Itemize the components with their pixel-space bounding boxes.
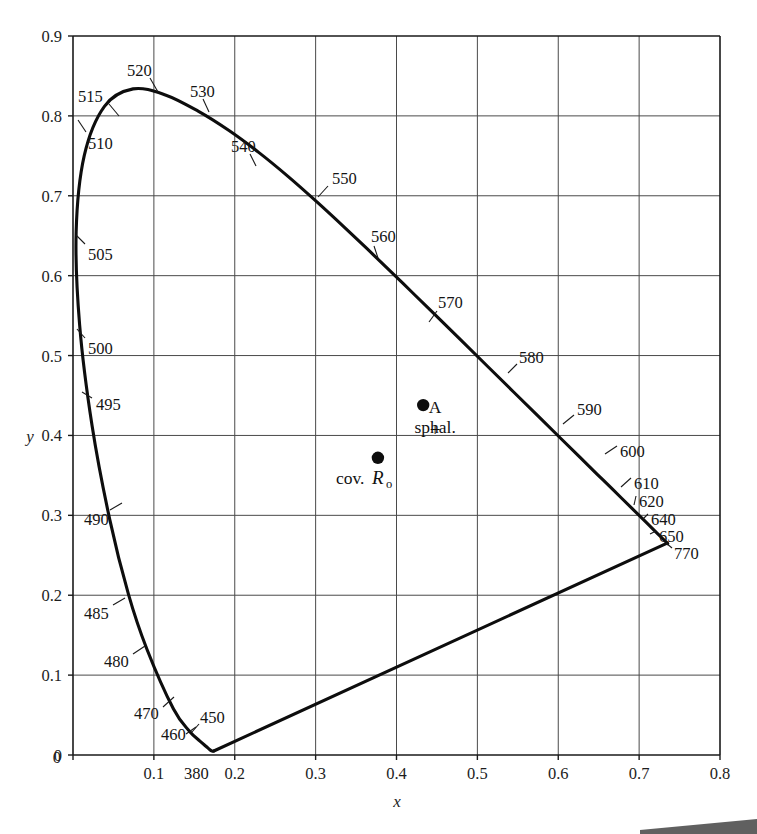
wavelength-label: 500 xyxy=(88,339,113,358)
y-tick-label: 0.5 xyxy=(41,347,62,366)
x-tick-label: 0.4 xyxy=(386,764,407,783)
wavelength-label: 485 xyxy=(84,604,109,623)
y-tick-label: 0.7 xyxy=(41,187,62,206)
y-tick-label: 0 xyxy=(54,746,62,765)
y-tick-label: 0.9 xyxy=(41,27,62,46)
y-tick-label: 0.8 xyxy=(41,107,62,126)
wavelength-label: 530 xyxy=(190,82,215,101)
y-tick-label: 0.1 xyxy=(41,666,62,685)
data-point-marker-sphalerite xyxy=(417,399,429,411)
wavelength-label: 590 xyxy=(577,400,602,419)
x-tick-label: 0.7 xyxy=(629,764,650,783)
y-tick-label: 0.3 xyxy=(41,506,62,525)
wavelength-label: 520 xyxy=(127,61,152,80)
wavelength-label: 480 xyxy=(104,652,129,671)
covellite-label-prefix: cov. xyxy=(336,468,365,488)
x-tick-label: 0.6 xyxy=(548,764,569,783)
y-axis-title: y xyxy=(24,427,34,446)
wavelength-label: 560 xyxy=(371,227,396,246)
wavelength-label: 380 xyxy=(184,764,209,783)
x-tick-label: 0.5 xyxy=(467,764,488,783)
wavelength-label: 550 xyxy=(332,169,357,188)
wavelength-label: 490 xyxy=(84,510,109,529)
x-tick-label: 0.3 xyxy=(305,764,326,783)
wavelength-label: 470 xyxy=(134,704,159,723)
wavelength-label: 505 xyxy=(88,245,113,264)
wavelength-label: 770 xyxy=(674,544,699,563)
y-tick-label: 0.6 xyxy=(41,267,62,286)
x-tick-label: 0.1 xyxy=(144,764,165,783)
wavelength-label: 510 xyxy=(88,134,113,153)
cie-chromaticity-figure: 00.10.20.30.40.50.60.70.8 00.10.20.30.40… xyxy=(0,0,757,834)
data-point-label-illuminant-a: A xyxy=(429,397,442,417)
y-tick-label: 0.4 xyxy=(41,426,62,445)
wavelength-label: 570 xyxy=(438,293,463,312)
covellite-label-italic: R xyxy=(371,467,384,488)
data-point-marker-covellite-ro xyxy=(372,452,384,464)
data-point-label-sphalerite: sphal. xyxy=(415,417,456,437)
x-tick-label: 0.8 xyxy=(710,764,731,783)
x-tick-label: 0.2 xyxy=(224,764,245,783)
wavelength-label: 620 xyxy=(639,492,664,511)
wavelength-label: 515 xyxy=(78,87,103,106)
covellite-label-subscript: o xyxy=(386,477,392,491)
x-axis-title: x xyxy=(392,792,401,811)
wavelength-label: 580 xyxy=(519,348,544,367)
wavelength-label: 600 xyxy=(620,442,645,461)
wavelength-label: 460 xyxy=(161,725,186,744)
chromaticity-diagram-svg: 00.10.20.30.40.50.60.70.8 00.10.20.30.40… xyxy=(0,0,757,834)
y-tick-label: 0.2 xyxy=(41,586,62,605)
wavelength-label: 540 xyxy=(231,137,256,156)
wavelength-label: 495 xyxy=(96,395,121,414)
wavelength-label: 450 xyxy=(200,708,225,727)
figure-background xyxy=(0,0,757,834)
wavelength-label: 610 xyxy=(634,474,659,493)
